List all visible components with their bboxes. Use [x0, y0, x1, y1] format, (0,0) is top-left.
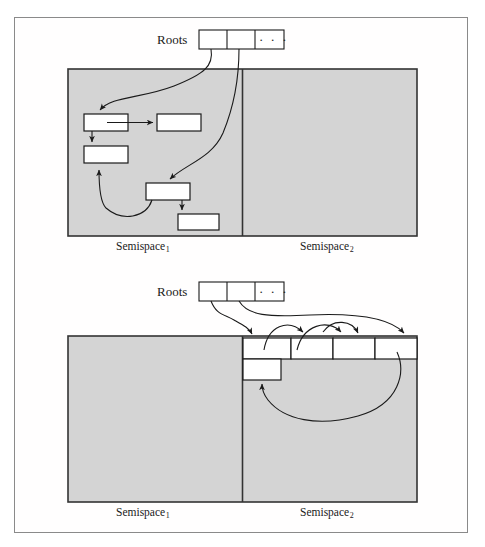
semispace-1-subscript-before: 1	[165, 245, 170, 254]
semispace-2-label-text-after: Semispace	[300, 506, 349, 518]
semispace-2-label-text-before: Semispace	[300, 240, 349, 252]
semispace-1-subscript-after: 1	[165, 511, 170, 520]
semispace-2-subscript-before: 2	[349, 245, 354, 254]
semispace-1-label-text-before: Semispace	[116, 240, 165, 252]
roots-ellipsis-before: · · ·	[259, 33, 289, 46]
compacted-cell-1	[243, 338, 291, 359]
roots-label-before: Roots	[157, 33, 187, 46]
figure-vector-art	[0, 0, 485, 547]
semispace-2-label-after: Semispace2	[300, 507, 354, 519]
heap-object-e	[178, 214, 219, 230]
semispace-1-label-after: Semispace1	[116, 507, 170, 519]
compacted-cell-3	[333, 338, 375, 359]
semispace-2-label-before: Semispace2	[300, 241, 354, 253]
roots-ellipsis-after: · · ·	[259, 285, 289, 298]
heap-object-c	[84, 146, 128, 163]
roots-label-after: Roots	[157, 285, 187, 298]
semispace-2-subscript-after: 2	[349, 511, 354, 520]
semispace-1-label-text-after: Semispace	[116, 506, 165, 518]
heap-object-b	[157, 114, 201, 131]
semispace-1-label-before: Semispace1	[116, 241, 170, 253]
root-pointer-2-arrow-after	[239, 301, 404, 333]
garbage-collection-figure: Roots · · · Semispace1 Semispace2 Roots …	[0, 0, 485, 547]
compacted-cell-5	[243, 359, 281, 380]
root-pointer-1-arrow-after	[211, 301, 252, 334]
compacted-cell-4	[375, 338, 417, 359]
heap-object-d	[146, 183, 190, 200]
